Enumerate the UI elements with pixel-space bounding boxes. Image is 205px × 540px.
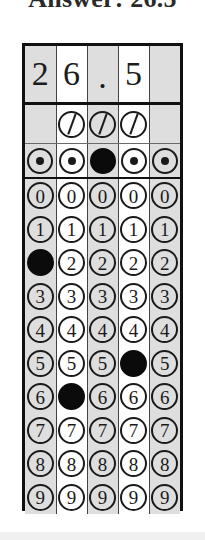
digit-bubble[interactable]: 8 (120, 450, 147, 477)
digit-bubble-cell[interactable]: 5 (25, 347, 56, 381)
digit-bubble-cell[interactable]: 6 (25, 380, 56, 414)
digit-bubble[interactable]: 1 (120, 216, 147, 243)
digit-bubble-cell[interactable]: 7 (56, 414, 87, 448)
digit-bubble[interactable]: 3 (89, 283, 116, 310)
digit-bubble[interactable]: 8 (89, 450, 116, 477)
digit-bubble[interactable]: 4 (27, 316, 54, 343)
decimal-bubble[interactable] (27, 148, 53, 174)
decimal-bubble-cell[interactable] (87, 144, 118, 179)
digit-bubble-cell[interactable]: 9 (149, 481, 180, 515)
written-answer-cell[interactable]: . (87, 46, 118, 104)
digit-bubble-filled[interactable]: 6 (58, 383, 85, 410)
digit-bubble[interactable]: 7 (27, 417, 54, 444)
digit-bubble-filled[interactable]: 2 (27, 249, 54, 276)
digit-bubble-cell[interactable]: 2 (87, 246, 118, 280)
digit-bubble[interactable]: 4 (58, 316, 85, 343)
digit-bubble[interactable]: 7 (89, 417, 116, 444)
digit-bubble-cell[interactable]: 2 (118, 246, 149, 280)
digit-bubble[interactable]: 8 (27, 450, 54, 477)
digit-bubble[interactable]: 0 (89, 182, 116, 209)
digit-bubble[interactable]: 0 (58, 182, 85, 209)
written-answer-cell[interactable] (149, 46, 180, 104)
digit-bubble-filled[interactable]: 5 (120, 350, 147, 377)
decimal-bubble[interactable] (121, 148, 147, 174)
digit-bubble[interactable]: 8 (58, 450, 85, 477)
digit-bubble[interactable]: 9 (27, 484, 54, 511)
digit-bubble-cell[interactable]: 1 (118, 213, 149, 247)
digit-bubble[interactable]: 8 (151, 450, 178, 477)
digit-bubble[interactable]: 2 (151, 249, 178, 276)
digit-bubble[interactable]: 5 (89, 350, 116, 377)
digit-bubble[interactable]: 7 (58, 417, 85, 444)
digit-bubble-cell[interactable]: 0 (149, 178, 180, 213)
digit-bubble-cell[interactable]: 5 (87, 347, 118, 381)
written-answer-cell[interactable]: 5 (118, 46, 149, 104)
digit-bubble[interactable]: 7 (151, 417, 178, 444)
digit-bubble-cell[interactable]: 5 (149, 347, 180, 381)
digit-bubble[interactable]: 1 (58, 216, 85, 243)
digit-bubble-cell[interactable]: 4 (87, 313, 118, 347)
digit-bubble-cell[interactable]: 9 (56, 481, 87, 515)
digit-bubble-cell[interactable]: 8 (118, 447, 149, 481)
digit-bubble[interactable]: 9 (120, 484, 147, 511)
digit-bubble-cell[interactable]: 7 (87, 414, 118, 448)
digit-bubble[interactable]: 2 (58, 249, 85, 276)
digit-bubble[interactable]: 5 (151, 350, 178, 377)
digit-bubble-cell[interactable]: 0 (118, 178, 149, 213)
digit-bubble-cell[interactable]: 9 (118, 481, 149, 515)
digit-bubble[interactable]: 3 (120, 283, 147, 310)
digit-bubble[interactable]: 4 (151, 316, 178, 343)
digit-bubble-cell[interactable]: 1 (56, 213, 87, 247)
digit-bubble-cell[interactable]: 0 (87, 178, 118, 213)
decimal-bubble-cell[interactable] (118, 144, 149, 179)
digit-bubble-cell[interactable]: 1 (25, 213, 56, 247)
digit-bubble[interactable]: 1 (27, 216, 54, 243)
digit-bubble[interactable]: 5 (58, 350, 85, 377)
digit-bubble[interactable]: 7 (120, 417, 147, 444)
fraction-bubble[interactable] (89, 111, 116, 138)
digit-bubble-cell[interactable]: 3 (25, 280, 56, 314)
fraction-bubble-cell[interactable] (149, 104, 180, 144)
fraction-bubble-cell[interactable] (25, 104, 56, 144)
digit-bubble[interactable]: 2 (120, 249, 147, 276)
digit-bubble-cell[interactable]: 8 (56, 447, 87, 481)
digit-bubble[interactable]: 3 (151, 283, 178, 310)
digit-bubble[interactable]: 6 (27, 383, 54, 410)
digit-bubble-cell[interactable]: 3 (56, 280, 87, 314)
digit-bubble[interactable]: 0 (27, 182, 54, 209)
fraction-bubble[interactable] (120, 111, 147, 138)
digit-bubble-cell[interactable]: 4 (56, 313, 87, 347)
digit-bubble[interactable]: 9 (58, 484, 85, 511)
digit-bubble[interactable]: 4 (89, 316, 116, 343)
decimal-bubble[interactable] (152, 148, 178, 174)
decimal-bubble-cell[interactable] (56, 144, 87, 179)
digit-bubble-cell[interactable]: 6 (56, 380, 87, 414)
digit-bubble-cell[interactable]: 8 (87, 447, 118, 481)
digit-bubble-cell[interactable]: 6 (87, 380, 118, 414)
digit-bubble-cell[interactable]: 2 (149, 246, 180, 280)
digit-bubble-cell[interactable]: 3 (149, 280, 180, 314)
digit-bubble-cell[interactable]: 8 (25, 447, 56, 481)
digit-bubble[interactable]: 6 (89, 383, 116, 410)
digit-bubble[interactable]: 1 (89, 216, 116, 243)
digit-bubble[interactable]: 6 (120, 383, 147, 410)
digit-bubble-cell[interactable]: 5 (118, 347, 149, 381)
digit-bubble-cell[interactable]: 2 (25, 246, 56, 280)
digit-bubble[interactable]: 3 (58, 283, 85, 310)
digit-bubble[interactable]: 9 (151, 484, 178, 511)
digit-bubble-cell[interactable]: 7 (118, 414, 149, 448)
fraction-bubble-cell[interactable] (118, 104, 149, 144)
digit-bubble-cell[interactable]: 3 (87, 280, 118, 314)
digit-bubble-cell[interactable]: 6 (149, 380, 180, 414)
digit-bubble-cell[interactable]: 0 (25, 178, 56, 213)
digit-bubble-cell[interactable]: 5 (56, 347, 87, 381)
digit-bubble-cell[interactable]: 2 (56, 246, 87, 280)
fraction-bubble[interactable] (58, 111, 85, 138)
decimal-bubble-cell[interactable] (149, 144, 180, 179)
decimal-bubble[interactable] (59, 148, 85, 174)
fraction-bubble-cell[interactable] (56, 104, 87, 144)
written-answer-cell[interactable]: 2 (25, 46, 56, 104)
written-answer-cell[interactable]: 6 (56, 46, 87, 104)
decimal-bubble-filled[interactable] (90, 148, 116, 174)
digit-bubble-cell[interactable]: 4 (25, 313, 56, 347)
